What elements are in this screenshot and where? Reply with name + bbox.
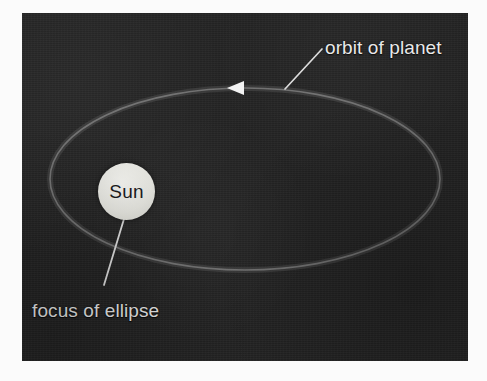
focus-of-ellipse-label: focus of ellipse	[32, 300, 159, 322]
sun-label: Sun	[109, 182, 143, 201]
diagram-scene: Sun orbit of planet focus of ellipse	[22, 13, 468, 361]
sun-body: Sun	[98, 163, 155, 220]
orbit-label-leader-line	[285, 49, 322, 89]
orbit-direction-arrow-icon	[227, 81, 244, 95]
diagram-plate: Sun orbit of planet focus of ellipse	[22, 13, 468, 361]
focus-label-leader-line	[104, 209, 127, 285]
orbit-of-planet-label: orbit of planet	[325, 37, 442, 59]
figure-page: Sun orbit of planet focus of ellipse	[0, 0, 487, 381]
